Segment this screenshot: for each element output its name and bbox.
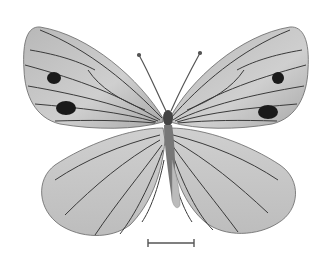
forewing-spot-upper xyxy=(47,72,61,84)
forewing-spot-upper-right xyxy=(272,72,284,84)
forewing-spot-lower xyxy=(56,101,76,115)
left-hindwing xyxy=(42,128,165,236)
butterfly-specimen-image xyxy=(0,0,330,266)
left-forewing xyxy=(24,27,163,128)
forewing-spot-lower-right xyxy=(258,105,278,119)
butterfly-illustration xyxy=(0,0,330,266)
right-hindwing xyxy=(170,128,296,233)
scale-bar xyxy=(148,239,194,247)
right-forewing xyxy=(170,27,308,128)
